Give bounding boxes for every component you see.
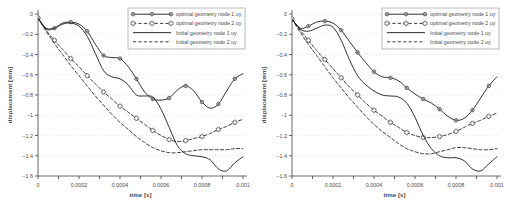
y-tick-label: −1.2 [276, 133, 287, 139]
legend-label: optimal geometry node 2 uy [176, 20, 242, 26]
y-tick-label: −1.6 [22, 173, 33, 179]
y-tick-label: −0.2 [276, 31, 287, 37]
x-tick-label: 0.001 [236, 182, 250, 188]
legend-label: optimal geometry node 1 uy [430, 11, 496, 17]
legend-label: Initial geometry node 1 uy [176, 30, 237, 36]
x-tick-label: 0.001 [490, 182, 504, 188]
x-tick-label: 0.0004 [366, 182, 383, 188]
chart-svg: 0−0.2−0.4−0.6−0.8−1−1.2−1.4−1.600.00020.… [0, 0, 254, 205]
x-tick-label: 0 [291, 182, 294, 188]
x-axis-ticks: 00.00020.00040.00060.00080.001 [291, 176, 504, 188]
x-tick-label: 0 [37, 182, 40, 188]
legend: optimal geometry node 1 uyoptimal geomet… [382, 8, 499, 49]
y-tick-label: 0 [284, 11, 287, 17]
legend-label: Initial geometry node 1 uy [430, 30, 491, 36]
y-tick-label: −0.6 [22, 72, 33, 78]
x-axis-ticks: 00.00020.00040.00060.00080.001 [37, 176, 250, 188]
x-tick-label: 0.0002 [71, 182, 88, 188]
y-tick-label: −0.8 [276, 92, 287, 98]
y-tick-label: −0.4 [276, 52, 287, 58]
y-tick-label: −1 [281, 112, 287, 118]
x-tick-label: 0.0002 [325, 182, 342, 188]
y-tick-label: −0.2 [22, 31, 33, 37]
y-axis-title: displacement [mm] [6, 67, 13, 123]
x-axis-title: time [s] [129, 191, 151, 198]
chart-svg: 0−0.2−0.4−0.6−0.8−1−1.2−1.4−1.600.00020.… [254, 0, 508, 205]
dual-line-chart-figure: 0−0.2−0.4−0.6−0.8−1−1.2−1.4−1.600.00020.… [0, 0, 508, 205]
x-tick-label: 0.0008 [448, 182, 465, 188]
y-axis-title: displacement [mm] [260, 67, 267, 123]
x-tick-label: 0.0004 [112, 182, 129, 188]
chart-panel-left: 0−0.2−0.4−0.6−0.8−1−1.2−1.4−1.600.00020.… [0, 0, 254, 205]
y-axis-ticks: 0−0.2−0.4−0.6−0.8−1−1.2−1.4−1.6 [22, 11, 38, 179]
y-tick-label: −1.4 [22, 153, 33, 159]
legend-label: optimal geometry node 1 uy [176, 11, 242, 17]
x-tick-label: 0.0008 [194, 182, 211, 188]
y-tick-label: −1 [27, 112, 33, 118]
y-tick-label: −1.2 [22, 133, 33, 139]
chart-panel-right: 0−0.2−0.4−0.6−0.8−1−1.2−1.4−1.600.00020.… [254, 0, 508, 205]
y-tick-label: −1.4 [276, 153, 287, 159]
y-tick-label: −0.8 [22, 92, 33, 98]
x-axis-title: time [s] [383, 191, 405, 198]
legend: optimal geometry node 1 uyoptimal geomet… [128, 8, 245, 49]
y-axis-ticks: 0−0.2−0.4−0.6−0.8−1−1.2−1.4−1.6 [276, 11, 292, 179]
legend-label: Initial geometry node 2 uy [430, 39, 491, 45]
x-tick-label: 0.0006 [153, 182, 170, 188]
y-tick-label: 0 [30, 11, 33, 17]
y-tick-label: −0.4 [22, 52, 33, 58]
legend-label: optimal geometry node 2 uy [430, 20, 496, 26]
y-tick-label: −1.6 [276, 173, 287, 179]
x-tick-label: 0.0006 [407, 182, 424, 188]
legend-label: Initial geometry node 2 uy [176, 39, 237, 45]
y-tick-label: −0.6 [276, 72, 287, 78]
